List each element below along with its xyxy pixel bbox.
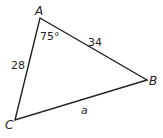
vertex-label-c: C <box>5 118 14 132</box>
angle-a-measure: 75° <box>40 30 60 43</box>
vertex-label-a: A <box>34 4 43 18</box>
triangle-diagram: A B C 75° 34 28 a <box>0 0 163 138</box>
side-bc-length: a <box>81 104 88 117</box>
side-ac-length: 28 <box>11 59 25 72</box>
vertex-label-b: B <box>149 74 157 88</box>
side-ab-length: 34 <box>88 36 102 49</box>
